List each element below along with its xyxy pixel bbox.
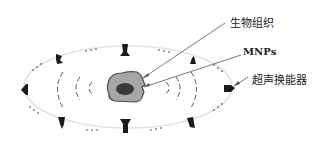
mnp-particles — [116, 83, 134, 95]
label-mnps: MNPs — [243, 46, 276, 57]
label-ultrasound-transducer: 超声换能器 — [252, 71, 307, 87]
ultrasound-waves-right — [166, 72, 197, 108]
leader-tissue — [143, 23, 225, 78]
arrowheads — [143, 73, 240, 87]
ultrasound-waves-left — [58, 72, 93, 108]
transducer-bottom-left — [58, 117, 65, 129]
transducer-right — [224, 85, 235, 92]
transducer-top-right — [190, 56, 196, 64]
label-biological-tissue: 生物组织 — [230, 14, 274, 30]
transducer-bottom — [120, 119, 131, 133]
ultrasound-transducer-array-diagram: 生物组织 MNPs 超声换能器 — [0, 0, 317, 148]
